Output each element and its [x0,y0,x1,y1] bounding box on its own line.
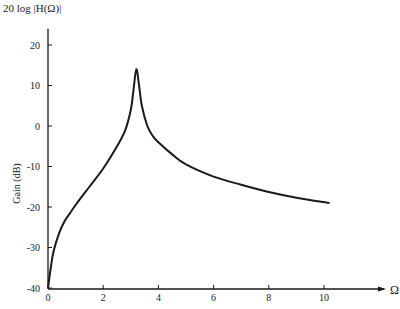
x-tick-label: 8 [266,292,271,303]
gain-plot: 20100-10-20-30-400246810 [0,0,400,309]
x-tick-label: 2 [101,292,106,303]
axes [48,29,386,292]
y-tick-label: -20 [27,202,40,213]
x-tick-label: 10 [319,292,329,303]
x-tick-label: 0 [46,292,51,303]
y-tick-label: -10 [27,161,40,172]
x-tick-label: 6 [211,292,216,303]
y-tick-label: 20 [30,40,40,51]
y-tick-label: 0 [35,121,40,132]
ticks: 20100-10-20-30-400246810 [27,40,329,304]
y-tick-label: -40 [27,283,40,294]
y-tick-label: -30 [27,242,40,253]
gain-curve [48,69,330,288]
x-axis-arrow-icon [378,287,386,292]
y-tick-label: 10 [30,80,40,91]
x-tick-label: 4 [156,292,161,303]
